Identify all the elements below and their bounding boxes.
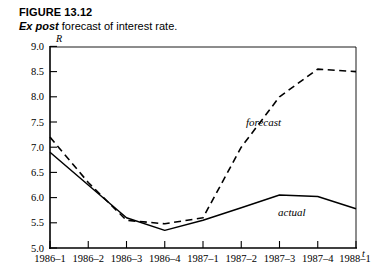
x-tick-label: 1986–2: [73, 253, 105, 264]
y-tick-label: 5.5: [31, 217, 44, 228]
interest-rate-line-chart: R t 5.0 5.5 6.0 6.5 7.0 7.5 8.0 8: [0, 30, 373, 278]
y-tick-label: 7.0: [31, 142, 44, 153]
x-tick-label: 1987–2: [226, 253, 258, 264]
x-tick-label: 1986–1: [34, 253, 66, 264]
y-tick-label: 5.0: [31, 243, 44, 254]
y-tick-label: 8.0: [31, 91, 44, 102]
y-tick-label: 6.5: [31, 167, 44, 178]
chart-plot-area: R t 5.0 5.5 6.0 6.5 7.0 7.5 8.0 8: [0, 30, 373, 278]
y-tick-label: 8.5: [31, 66, 44, 77]
figure-caption: FIGURE 13.12 Ex post forecast of interes…: [19, 6, 349, 33]
y-axis-label: R: [55, 33, 62, 44]
figure-number: FIGURE 13.12: [19, 6, 349, 19]
series-line-forecast: [50, 69, 356, 224]
x-tick-label: 1986–4: [149, 253, 181, 264]
y-tick-group: 5.0 5.5 6.0 6.5 7.0 7.5 8.0 8.5 9.0: [31, 41, 57, 254]
y-tick-label: 6.0: [31, 192, 44, 203]
x-tick-label: 1987–1: [187, 253, 219, 264]
x-tick-label: 1987–4: [302, 253, 334, 264]
series-annotation-forecast: forecast: [246, 116, 282, 128]
figure-container: FIGURE 13.12 Ex post forecast of interes…: [0, 0, 373, 278]
x-tick-label: 1986–3: [111, 253, 143, 264]
x-tick-label: 1988–1: [339, 253, 371, 264]
series-line-actual: [50, 152, 356, 230]
x-tick-label: 1987–3: [264, 253, 296, 264]
y-tick-label: 9.0: [31, 41, 44, 52]
series-annotation-actual: actual: [278, 206, 306, 218]
x-tick-group: 1986–1 1986–2 1986–3 1986–4 1987–1 1987–…: [34, 241, 371, 264]
y-tick-label: 7.5: [31, 117, 44, 128]
